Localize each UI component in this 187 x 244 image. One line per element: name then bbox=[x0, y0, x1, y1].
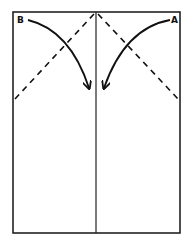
folding-diagram: B A bbox=[0, 0, 187, 244]
corner-label-a: A bbox=[171, 15, 178, 25]
fold-line-left bbox=[14, 14, 94, 100]
fold-line-right bbox=[98, 14, 179, 100]
corner-label-b: B bbox=[17, 15, 24, 25]
fold-arrow-b bbox=[28, 20, 89, 88]
